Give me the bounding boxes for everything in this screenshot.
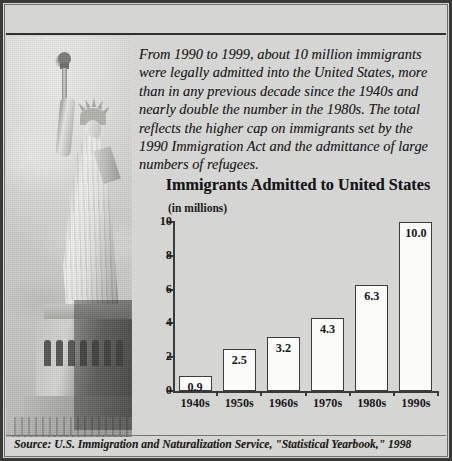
y-axis-tick-label: 2 (148, 349, 172, 364)
x-axis-tick-label: 1990s (394, 396, 438, 411)
bar: 3.2 (267, 337, 300, 391)
y-axis-tick-label: 0 (148, 383, 172, 398)
x-axis-tick-label: 1960s (261, 396, 305, 411)
bar: 0.9 (179, 376, 212, 391)
y-axis-line (173, 221, 175, 393)
bar-value-label: 6.3 (356, 289, 387, 304)
bar-value-label: 10.0 (400, 226, 431, 241)
x-axis-tick-label: 1970s (306, 396, 350, 411)
y-axis-tick-label: 4 (148, 315, 172, 330)
bar-value-label: 2.5 (224, 353, 255, 368)
bar-value-label: 3.2 (268, 341, 299, 356)
bar-value-label: 0.9 (180, 380, 211, 395)
source-divider (6, 435, 446, 436)
x-axis-tick-label: 1950s (217, 396, 261, 411)
photo-grain (6, 36, 132, 437)
headline-band (6, 5, 446, 33)
y-axis-tick-label: 10 (148, 214, 172, 229)
headline-divider (6, 33, 446, 35)
intro-paragraph: From 1990 to 1999, about 10 million immi… (139, 45, 442, 174)
x-axis-tick-label: 1940s (173, 396, 217, 411)
chart-title: Immigrants Admitted to United States (150, 176, 446, 195)
bar: 10.0 (399, 222, 432, 391)
statue-of-liberty-photo (6, 36, 132, 437)
infographic-page: Flow of Immigrants Steadily Increased (0, 0, 452, 461)
bar-chart: 0246810 0.92.53.24.36.310.0 1940s1950s19… (149, 218, 444, 410)
chart-units-label: (in millions) (168, 202, 227, 214)
bar-value-label: 4.3 (312, 322, 343, 337)
y-axis-tick-label: 8 (148, 248, 172, 263)
source-note: Source: U.S. Immigration and Naturalizat… (14, 438, 411, 451)
y-axis-tick-label: 6 (148, 282, 172, 297)
bar: 6.3 (355, 285, 388, 391)
bar: 4.3 (311, 318, 344, 391)
x-axis-tick-label: 1980s (350, 396, 394, 411)
bar: 2.5 (223, 349, 256, 391)
